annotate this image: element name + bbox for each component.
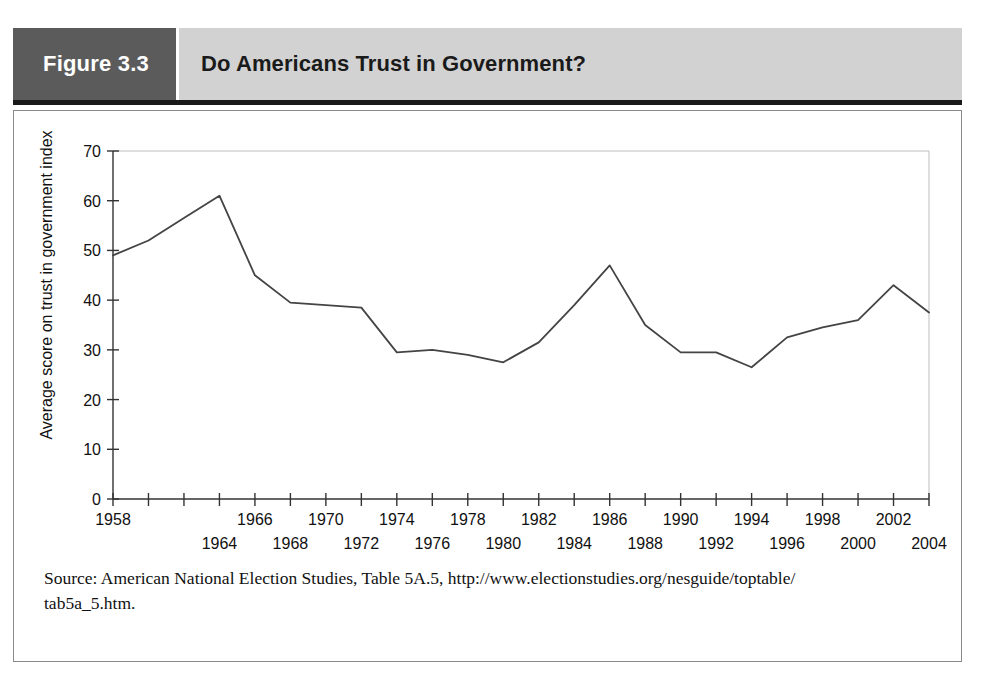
y-tick-label: 70 bbox=[83, 143, 101, 160]
y-tick-label: 20 bbox=[83, 392, 101, 409]
x-tick-label-bottom: 1984 bbox=[556, 535, 592, 552]
figure-body-panel: Average score on trust in government ind… bbox=[13, 110, 962, 662]
y-tick-label: 10 bbox=[83, 441, 101, 458]
x-tick-label-bottom: 1992 bbox=[698, 535, 734, 552]
page-title: Do Americans Trust in Government? bbox=[201, 51, 586, 77]
x-tick-label-top: 1958 bbox=[95, 511, 131, 528]
x-tick-label-top: 2002 bbox=[876, 511, 912, 528]
y-tick-label: 60 bbox=[83, 193, 101, 210]
x-tick-label-bottom: 1972 bbox=[344, 535, 380, 552]
x-tick-label-top: 1982 bbox=[521, 511, 557, 528]
x-tick-label-top: 1986 bbox=[592, 511, 628, 528]
data-series-line bbox=[113, 196, 929, 368]
y-tick-label: 50 bbox=[83, 242, 101, 259]
y-tick-label: 40 bbox=[83, 292, 101, 309]
plot-frame bbox=[113, 151, 929, 499]
x-tick-label-top: 1974 bbox=[379, 511, 415, 528]
y-tick-label: 0 bbox=[92, 491, 101, 508]
source-note: Source: American National Election Studi… bbox=[44, 566, 934, 617]
x-tick-label-bottom: 2004 bbox=[911, 535, 947, 552]
x-tick-label-top: 1970 bbox=[308, 511, 344, 528]
x-tick-label-bottom: 1988 bbox=[627, 535, 663, 552]
x-tick-label-top: 1966 bbox=[237, 511, 273, 528]
figure-title-block: Do Americans Trust in Government? bbox=[176, 28, 962, 100]
x-tick-label-bottom: 1976 bbox=[415, 535, 451, 552]
x-tick-label-bottom: 2000 bbox=[840, 535, 876, 552]
header-divider-rule bbox=[13, 100, 962, 105]
x-tick-label-top: 1990 bbox=[663, 511, 699, 528]
x-tick-label-bottom: 1980 bbox=[485, 535, 521, 552]
x-tick-label-bottom: 1968 bbox=[273, 535, 309, 552]
source-line-1: Source: American National Election Studi… bbox=[44, 568, 795, 588]
y-axis-title: Average score on trust in government ind… bbox=[38, 120, 56, 450]
chart-area: Average score on trust in government ind… bbox=[14, 116, 963, 566]
x-tick-label-bottom: 1964 bbox=[202, 535, 238, 552]
x-tick-label-top: 1998 bbox=[805, 511, 841, 528]
figure-number-label: Figure 3.3 bbox=[43, 51, 149, 77]
x-tick-label-top: 1994 bbox=[734, 511, 770, 528]
figure-container: Figure 3.3 Do Americans Trust in Governm… bbox=[0, 0, 981, 675]
figure-number-block: Figure 3.3 bbox=[13, 28, 176, 100]
figure-header: Figure 3.3 Do Americans Trust in Governm… bbox=[13, 28, 962, 100]
trust-in-government-line-chart: 0102030405060701958196419661968197019721… bbox=[14, 116, 963, 566]
y-tick-label: 30 bbox=[83, 342, 101, 359]
x-tick-label-bottom: 1996 bbox=[769, 535, 805, 552]
x-tick-label-top: 1978 bbox=[450, 511, 486, 528]
source-line-2: tab5a_5.htm. bbox=[44, 593, 135, 613]
